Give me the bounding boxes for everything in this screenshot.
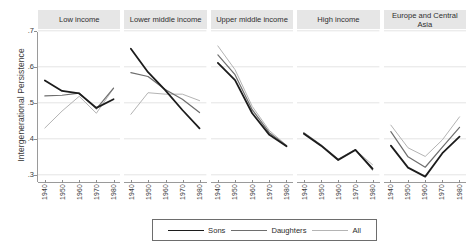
legend-swatch-daughters [231,230,267,231]
y-tick-label: .3 [18,171,34,179]
series-line-sons [45,80,114,107]
x-tick-label: 1970 [179,184,186,200]
x-tick-mark [408,180,409,183]
x-tick-label: 1950 [404,184,411,200]
panel-low-income: Low income [38,10,120,182]
x-tick-mark [425,180,426,183]
x-tick-label: 1960 [335,184,342,200]
x-tick-label: 1960 [162,184,169,200]
x-tick-label: 1940 [128,184,135,200]
x-tick-mark [235,180,236,183]
panel-europe-and-central-asia: Europe and Central Asia [384,10,466,182]
panel-plot-area [211,29,293,182]
y-tick-label: .7 [18,27,34,35]
x-tick-mark [442,180,443,183]
x-tick-label: 1950 [318,184,325,200]
x-tick-mark [286,180,287,183]
panel-high-income: High income [297,10,379,182]
x-axis-group: 19401950196019701980 [124,183,206,217]
legend-swatch-sons [168,230,204,231]
x-tick-mark [338,180,339,183]
chart-legend: SonsDaughtersAll [152,219,377,241]
x-tick-mark [356,180,357,183]
legend-item-all[interactable]: All [312,226,360,235]
x-tick-mark [269,180,270,183]
x-tick-mark [96,180,97,183]
x-tick-label: 1980 [369,184,376,200]
x-tick-label: 1950 [145,184,152,200]
x-tick-label: 1940 [214,184,221,200]
x-tick-label: 1980 [110,184,117,200]
series-line-sons [218,63,287,147]
x-tick-mark [131,180,132,183]
x-tick-label: 1950 [231,184,238,200]
panel-title: High income [297,10,379,29]
x-tick-label: 1960 [76,184,83,200]
x-tick-mark [114,180,115,183]
x-tick-mark [218,180,219,183]
legend-label: All [352,226,360,235]
x-tick-label: 1980 [196,184,203,200]
x-tick-mark [45,180,46,183]
x-tick-mark [304,180,305,183]
x-tick-label: 1940 [41,184,48,200]
x-tick-mark [62,180,63,183]
x-tick-mark [373,180,374,183]
x-tick-mark [200,180,201,183]
y-tick-label: .6 [18,63,34,71]
x-tick-mark [166,180,167,183]
x-tick-label: 1960 [421,184,428,200]
legend-swatch-all [312,230,348,231]
x-tick-mark [252,180,253,183]
panel-plot-area [124,29,206,182]
panel-title: Europe and Central Asia [384,10,466,29]
x-tick-mark [148,180,149,183]
panel-title: Lower middle income [124,10,206,29]
panel-title: Upper middle income [211,10,293,29]
x-axis: 1940195019601970198019401950196019701980… [38,183,466,217]
y-tick-label: .5 [18,99,34,107]
series-line-all [131,93,200,115]
series-line-daughters [304,133,373,170]
legend-item-sons[interactable]: Sons [168,226,225,235]
series-line-all [218,46,287,145]
x-tick-label: 1980 [283,184,290,200]
x-tick-label: 1940 [387,184,394,200]
series-line-daughters [45,88,114,109]
x-tick-label: 1940 [301,184,308,200]
x-tick-label: 1980 [456,184,463,200]
x-axis-group: 19401950196019701980 [211,183,293,217]
panel-title: Low income [38,10,120,29]
panel-upper-middle-income: Upper middle income [211,10,293,182]
x-tick-label: 1950 [59,184,66,200]
x-tick-mark [459,180,460,183]
x-tick-mark [390,180,391,183]
x-tick-label: 1970 [266,184,273,200]
legend-label: Daughters [271,226,306,235]
panel-lower-middle-income: Lower middle income [124,10,206,182]
y-axis: .7.6.5.4.3 [14,0,34,250]
x-tick-mark [321,180,322,183]
panel-plot-area [297,29,379,182]
legend-item-daughters[interactable]: Daughters [231,226,306,235]
x-axis-group: 19401950196019701980 [297,183,379,217]
series-line-all [390,117,459,157]
legend-label: Sons [208,226,225,235]
x-tick-label: 1960 [249,184,256,200]
x-axis-group: 19401950196019701980 [384,183,466,217]
x-tick-label: 1970 [352,184,359,200]
series-line-daughters [218,55,287,146]
x-tick-label: 1970 [93,184,100,200]
x-tick-label: 1970 [438,184,445,200]
series-line-sons [131,49,200,129]
panel-plot-area [38,29,120,182]
series-line-daughters [131,73,200,113]
chart-figure: Intergenerational Persistence .7.6.5.4.3… [0,0,470,250]
panel-row: Low incomeLower middle incomeUpper middl… [38,10,466,182]
y-tick-label: .4 [18,135,34,143]
x-tick-mark [183,180,184,183]
panel-plot-area [384,29,466,182]
x-axis-group: 19401950196019701980 [38,183,120,217]
x-tick-mark [79,180,80,183]
